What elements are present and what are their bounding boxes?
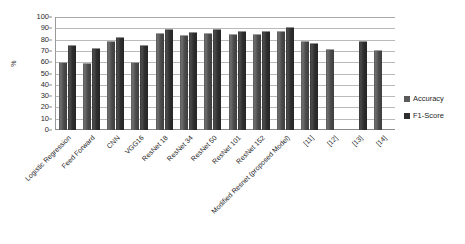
bar-group	[298, 17, 322, 130]
legend-item[interactable]: Accuracy	[404, 95, 464, 103]
bar-acc	[180, 35, 188, 130]
chart-legend: AccuracyF1-Score	[404, 95, 464, 129]
bar-group	[274, 17, 298, 130]
legend-item[interactable]: F1-Score	[404, 112, 464, 120]
y-axis-tick-label: 20	[41, 103, 49, 111]
y-axis-tick-label: 30	[41, 92, 49, 100]
y-axis-tick-mark	[49, 84, 52, 85]
bar-f1	[262, 31, 270, 130]
y-axis-tick-mark	[49, 107, 52, 108]
x-axis-label-cell: Modified Resnet (proposed Model)	[274, 131, 298, 241]
y-axis-tick-mark	[49, 62, 52, 63]
y-axis-tick-labels: 1009080706050403020100	[24, 17, 52, 130]
y-axis-title: %	[10, 57, 17, 71]
bar-f1	[116, 37, 124, 130]
bar-acc	[107, 41, 115, 130]
bar-f1	[238, 31, 246, 130]
f1-score-swatch	[404, 113, 410, 119]
bar-acc	[326, 49, 334, 130]
legend-label: Accuracy	[413, 95, 444, 103]
x-axis-tick-label: [13]	[350, 134, 364, 148]
x-axis-label-cell: [14]	[371, 131, 395, 241]
y-axis-tick-mark	[49, 73, 52, 74]
bar-group	[104, 17, 128, 130]
x-axis-label-cell: [13]	[346, 131, 370, 241]
bar-f1	[92, 48, 100, 130]
x-axis-tick-label: CNN	[105, 134, 121, 150]
y-axis-tick-label: 100	[36, 13, 49, 21]
x-axis-tick-label: [12]	[326, 134, 340, 148]
y-axis-tick-label: 10	[41, 115, 49, 123]
x-axis-label-cell: CNN	[104, 131, 128, 241]
y-axis-tick-mark	[49, 28, 52, 29]
bar-group	[371, 17, 395, 130]
bar-chart: % 1009080706050403020100 Logistic Regres…	[0, 0, 465, 244]
bar-group	[152, 17, 176, 130]
x-axis-label-cell: [12]	[322, 131, 346, 241]
bar-group	[346, 17, 370, 130]
x-axis-label-cell: [11]	[298, 131, 322, 241]
y-axis-tick-label: 60	[41, 58, 49, 66]
bar-acc	[59, 62, 67, 130]
y-axis-tick-mark	[49, 17, 52, 18]
y-axis-tick-label: 40	[41, 81, 49, 89]
bar-group	[55, 17, 79, 130]
x-axis-label-cell: ResNet 18	[152, 131, 176, 241]
x-axis-label-cell: ResNet 152	[249, 131, 273, 241]
bar-group	[201, 17, 225, 130]
y-axis-tick-mark	[49, 96, 52, 97]
bar-acc	[131, 62, 139, 130]
bar-group	[225, 17, 249, 130]
y-axis-tick-mark	[49, 50, 52, 51]
bar-group	[128, 17, 152, 130]
bars-layer	[55, 17, 395, 130]
x-axis-tick-label: [14]	[375, 134, 389, 148]
bar-f1	[286, 27, 294, 130]
y-axis-tick-label: 80	[41, 36, 49, 44]
bar-acc	[301, 41, 309, 130]
bar-acc	[156, 33, 164, 130]
bar-acc	[204, 33, 212, 130]
bar-group	[249, 17, 273, 130]
bar-f1	[140, 45, 148, 130]
bar-f1	[165, 29, 173, 130]
bar-group	[322, 17, 346, 130]
bar-f1	[68, 45, 76, 130]
x-axis-tick-labels: Logistic RegressionFeed ForwardCNNVGG16R…	[55, 131, 395, 241]
legend-label: F1-Score	[413, 112, 444, 120]
bar-acc	[83, 63, 91, 130]
bar-acc	[253, 34, 261, 130]
y-axis-tick-label: 90	[41, 24, 49, 32]
bar-acc	[277, 31, 285, 130]
bar-f1	[189, 32, 197, 130]
y-axis-tick-mark	[49, 118, 52, 119]
y-axis-tick-mark	[49, 39, 52, 40]
bar-acc	[229, 34, 237, 130]
x-axis-label-cell: Feed Forward	[79, 131, 103, 241]
y-axis-tick-label: 50	[41, 70, 49, 78]
x-axis-label-cell: ResNet 34	[176, 131, 200, 241]
x-axis-label-cell: VGG16	[128, 131, 152, 241]
x-axis-label-cell: ResNet 50	[201, 131, 225, 241]
bar-f1	[213, 29, 221, 130]
accuracy-swatch	[404, 96, 410, 102]
y-axis-tick-mark	[49, 130, 52, 131]
bar-group	[176, 17, 200, 130]
bar-group	[79, 17, 103, 130]
bar-acc	[374, 50, 382, 130]
bar-f1	[359, 41, 367, 130]
x-axis-tick-label: [11]	[302, 134, 316, 148]
bar-f1	[310, 43, 318, 130]
y-axis-tick-label: 70	[41, 47, 49, 55]
